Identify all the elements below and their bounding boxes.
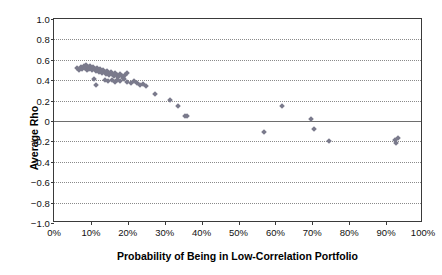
x-tick-label: 40%	[192, 227, 211, 238]
y-tick-label: 0.2	[36, 95, 50, 106]
data-point	[175, 103, 181, 109]
x-tick-label: 10%	[81, 227, 100, 238]
gridline	[54, 101, 421, 102]
y-tick-label: −0.6	[31, 177, 50, 188]
y-tick-label: −0.2	[31, 136, 50, 147]
data-point	[279, 103, 285, 109]
x-tick-mark	[165, 221, 166, 225]
gridline	[54, 39, 421, 40]
data-point	[311, 126, 317, 132]
y-tick-label: 0.4	[36, 75, 50, 86]
x-tick-mark	[91, 221, 92, 225]
x-tick-label: 100%	[411, 227, 435, 238]
x-tick-mark	[275, 221, 276, 225]
gridline	[54, 60, 421, 61]
x-axis-title: Probability of Being in Low-Correlation …	[53, 250, 422, 262]
y-tick-mark	[51, 162, 54, 163]
y-tick-label: −0.8	[31, 197, 50, 208]
x-tick-mark	[312, 221, 313, 225]
x-tick-mark	[386, 221, 387, 225]
y-tick-mark	[51, 60, 54, 61]
x-tick-label: 80%	[340, 227, 359, 238]
x-tick-label: 30%	[155, 227, 174, 238]
y-tick-mark	[51, 39, 54, 40]
x-tick-mark	[128, 221, 129, 225]
x-tick-label: 0%	[47, 227, 61, 238]
y-tick-mark	[51, 223, 54, 224]
x-tick-label: 20%	[118, 227, 137, 238]
data-point	[152, 92, 158, 98]
y-tick-mark	[51, 203, 54, 204]
x-tick-mark	[202, 221, 203, 225]
gridline	[54, 182, 421, 183]
data-point	[143, 83, 149, 89]
y-tick-label: 0	[45, 116, 50, 127]
data-point	[93, 82, 99, 88]
gridline	[54, 203, 421, 204]
y-tick-mark	[51, 19, 54, 20]
y-tick-mark	[51, 101, 54, 102]
scatter-chart-figure: Average Rho 1.00.80.60.40.20−0.2−0.4−0.6…	[0, 0, 442, 275]
x-tick-label: 50%	[229, 227, 248, 238]
y-tick-mark	[51, 80, 54, 81]
plot-area: 1.00.80.60.40.20−0.2−0.4−0.6−0.8−1.0 0%1…	[53, 18, 422, 222]
x-tick-label: 70%	[303, 227, 322, 238]
x-tick-label: 60%	[266, 227, 285, 238]
data-point	[326, 139, 332, 145]
data-point	[261, 129, 267, 135]
zero-baseline	[54, 121, 421, 122]
y-tick-mark	[51, 141, 54, 142]
gridline	[54, 162, 421, 163]
gridline	[54, 141, 421, 142]
y-tick-label: 0.6	[36, 54, 50, 65]
y-tick-label: 1.0	[36, 14, 50, 25]
y-tick-label: 0.8	[36, 34, 50, 45]
y-tick-mark	[51, 182, 54, 183]
y-tick-label: −0.4	[31, 156, 50, 167]
x-tick-label: 90%	[377, 227, 396, 238]
x-tick-mark	[349, 221, 350, 225]
x-tick-mark	[239, 221, 240, 225]
y-tick-mark	[51, 121, 54, 122]
